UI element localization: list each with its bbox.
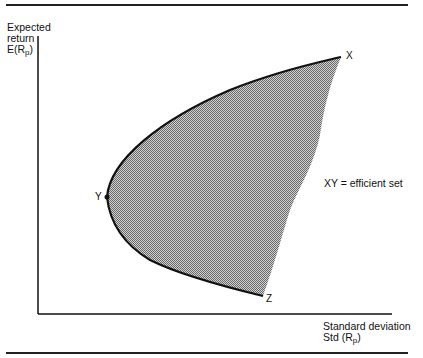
point-z-label: Z xyxy=(266,293,272,304)
x-axis-label: Standard deviation Std (Rp) xyxy=(323,321,411,346)
efficient-set-legend: XY = efficient set xyxy=(324,177,403,189)
bottom-rule xyxy=(6,352,408,354)
point-x-label: X xyxy=(346,50,353,61)
point-y-marker xyxy=(105,195,110,200)
point-y-label: Y xyxy=(95,191,102,202)
